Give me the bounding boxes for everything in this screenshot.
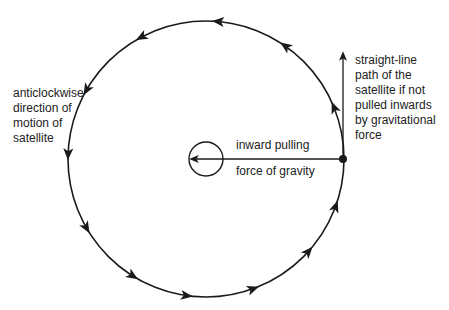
- orbit-arrow-icon: [246, 282, 261, 296]
- anticlockwise-direction-label: anticlockwise direction of motion of sat…: [13, 86, 93, 146]
- orbit-arrow-icon: [327, 100, 341, 115]
- orbit-diagram: [0, 0, 449, 310]
- orbit-arrow-icon: [329, 199, 343, 214]
- force-of-gravity-label: force of gravity: [236, 164, 315, 179]
- orbit-arrow-icon: [134, 30, 149, 44]
- orbit-arrow-icon: [277, 38, 293, 53]
- orbit-arrow-icon: [79, 220, 94, 235]
- satellite-dot: [339, 155, 347, 163]
- straight-line-path-label: straight-line path of the satellite if n…: [355, 53, 449, 143]
- orbit-arrow-icon: [125, 269, 140, 284]
- inward-pulling-label: inward pulling: [236, 138, 309, 153]
